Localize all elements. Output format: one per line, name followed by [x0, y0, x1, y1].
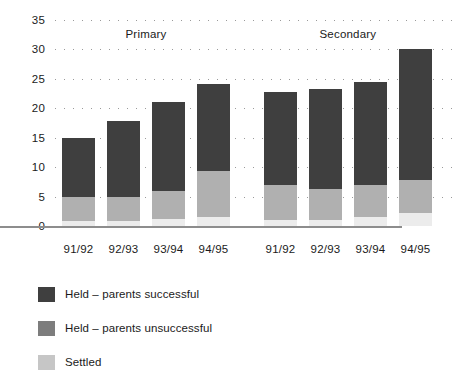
legend-item: Held – parents unsuccessful — [38, 315, 458, 341]
y-axis-tick-label: 10 — [15, 161, 45, 173]
bar-primary-93-94 — [152, 102, 185, 226]
segment-settled — [197, 217, 230, 226]
segment-held-successful — [107, 121, 140, 196]
segment-held-successful — [354, 82, 387, 184]
segment-held-successful — [399, 49, 432, 180]
segment-held-successful — [264, 92, 297, 184]
x-axis-tick-label: 94/95 — [184, 243, 244, 255]
gridline — [55, 108, 455, 109]
y-axis-tick-label: 30 — [15, 43, 45, 55]
segment-held-successful — [309, 89, 342, 189]
y-axis-tick-label: 5 — [15, 191, 45, 203]
segment-held-successful — [152, 102, 185, 190]
segment-held-unsuccessful — [107, 197, 140, 222]
segment-settled — [354, 217, 387, 226]
bar-secondary-92-93 — [309, 89, 342, 226]
y-axis-tick-label: 25 — [15, 73, 45, 85]
y-axis-tick-label: 20 — [15, 102, 45, 114]
segment-settled — [399, 213, 432, 226]
legend-item: Held – parents successful — [38, 281, 458, 307]
plot-area — [55, 20, 455, 226]
y-axis-tick-label: 15 — [15, 132, 45, 144]
segment-held-successful — [197, 84, 230, 172]
y-axis-tick-label: 35 — [15, 14, 45, 26]
gridline — [55, 79, 455, 80]
bar-secondary-94-95 — [399, 49, 432, 226]
legend-label-held-successful: Held – parents successful — [65, 288, 199, 300]
segment-held-unsuccessful — [354, 185, 387, 217]
segment-held-unsuccessful — [152, 191, 185, 219]
legend-swatch-held-unsuccessful — [38, 321, 55, 336]
segment-held-unsuccessful — [264, 185, 297, 220]
segment-held-successful — [62, 138, 95, 197]
segment-held-unsuccessful — [62, 197, 95, 222]
gridline — [55, 49, 455, 50]
group-label-primary: Primary — [126, 28, 167, 40]
bar-primary-94-95 — [197, 84, 230, 226]
x-axis-tick-label: 94/95 — [386, 243, 446, 255]
bar-primary-92-93 — [107, 121, 140, 226]
segment-held-unsuccessful — [309, 189, 342, 220]
segment-held-unsuccessful — [197, 171, 230, 217]
segment-settled — [152, 219, 185, 226]
bar-primary-91-92 — [62, 138, 95, 226]
legend-swatch-settled — [38, 355, 55, 370]
legend-label-held-unsuccessful: Held – parents unsuccessful — [65, 322, 212, 334]
bar-secondary-91-92 — [264, 92, 297, 226]
legend-item: Settled — [38, 349, 458, 374]
chart-legend: Held – parents successful Held – parents… — [38, 281, 458, 374]
bar-secondary-93-94 — [354, 82, 387, 226]
legend-label-settled: Settled — [65, 356, 102, 368]
x-axis-line — [0, 226, 402, 228]
gridline — [55, 20, 455, 21]
group-label-secondary: Secondary — [320, 28, 377, 40]
legend-swatch-held-successful — [38, 287, 55, 302]
segment-held-unsuccessful — [399, 180, 432, 213]
